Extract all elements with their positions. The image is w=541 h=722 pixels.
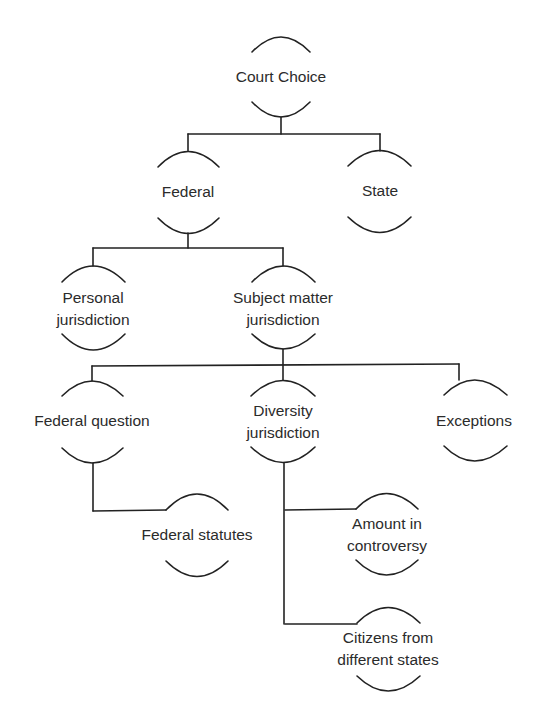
connector-federal-question xyxy=(93,463,166,511)
node-label-line-1: Personal xyxy=(56,287,129,309)
node-diversity-jurisdiction: Diversity jurisdiction xyxy=(246,400,319,444)
node-subject-matter-jurisdiction: Subject matter jurisdiction xyxy=(233,287,333,331)
court-choice-tree-diagram xyxy=(0,0,541,722)
node-label: State xyxy=(362,182,398,199)
node-amount-in-controversy: Amount in controversy xyxy=(347,513,427,557)
node-label-line-2: controversy xyxy=(347,535,427,557)
node-state: State xyxy=(362,180,398,202)
node-court-choice: Court Choice xyxy=(236,66,326,88)
node-federal-statutes: Federal statutes xyxy=(141,524,252,546)
node-label-line-1: Citizens from xyxy=(337,627,438,649)
node-label: Federal xyxy=(162,183,215,200)
node-label: Federal statutes xyxy=(141,526,252,543)
node-citizens-from-different-states: Citizens from different states xyxy=(337,627,438,671)
connector-court-choice xyxy=(188,117,380,151)
node-label-line-1: Amount in xyxy=(347,513,427,535)
node-label: Federal question xyxy=(34,412,149,429)
node-label-line-2: different states xyxy=(337,649,438,671)
node-label-line-2: jurisdiction xyxy=(233,309,333,331)
node-label: Exceptions xyxy=(436,412,512,429)
node-label-line-2: jurisdiction xyxy=(56,309,129,331)
node-federal-question: Federal question xyxy=(34,410,149,432)
node-personal-jurisdiction: Personal jurisdiction xyxy=(56,287,129,331)
node-label-line-1: Subject matter xyxy=(233,287,333,309)
node-label: Court Choice xyxy=(236,68,326,85)
node-federal: Federal xyxy=(162,181,215,203)
connector-federal xyxy=(93,233,283,266)
connector-subject-matter xyxy=(92,349,459,381)
node-exceptions: Exceptions xyxy=(436,410,512,432)
node-label-line-1: Diversity xyxy=(246,400,319,422)
node-label-line-2: jurisdiction xyxy=(246,422,319,444)
